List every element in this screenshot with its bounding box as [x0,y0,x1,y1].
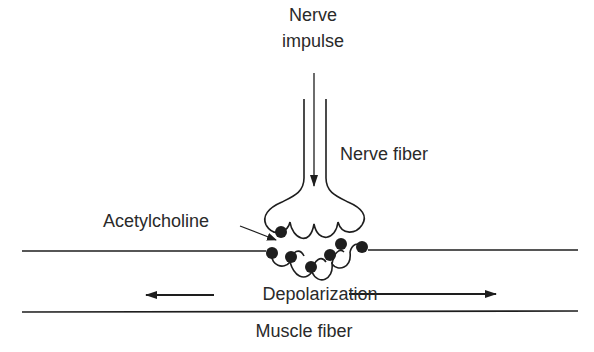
depolarization-label: Depolarization [262,285,377,303]
muscle-fiber-line [22,311,578,312]
nerve-fiber-label: Nerve fiber [340,145,428,163]
muscle-fiber-label: Muscle fiber [255,322,352,340]
nerve-impulse-label-line2: impulse [282,32,344,50]
nerve-impulse-label-line1: Nerve [289,6,337,24]
acetylcholine-label: Acetylcholine [103,212,209,230]
acetylcholine-pointer [240,226,276,240]
neuromuscular-junction-diagram: Nerve impulse Nerve fiber Acetylcholine … [0,0,594,352]
